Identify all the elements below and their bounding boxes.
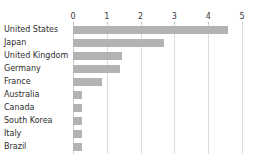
bar: [73, 39, 164, 47]
x-tick-label-5: 5: [239, 12, 244, 21]
category-label: Brazil: [0, 143, 65, 151]
x-axis-ticks: 012345: [0, 12, 257, 24]
gridline-4: [208, 24, 209, 154]
category-label: United Kingdom: [0, 52, 65, 60]
y-axis-category-labels: United StatesJapanUnited KingdomGermanyF…: [0, 24, 69, 154]
bar: [73, 78, 102, 86]
gridline-3: [174, 24, 175, 154]
category-label: Italy: [0, 130, 65, 138]
bar-chart: 012345 United StatesJapanUnited KingdomG…: [0, 0, 257, 160]
category-label: Australia: [0, 91, 65, 99]
bar: [73, 26, 228, 34]
x-tick-label-2: 2: [138, 12, 143, 21]
x-tick-label-3: 3: [172, 12, 177, 21]
bar: [73, 65, 120, 73]
category-label: Germany: [0, 65, 65, 73]
gridline-5: [242, 24, 243, 154]
bar: [73, 117, 82, 125]
category-label: Japan: [0, 39, 65, 47]
category-label: South Korea: [0, 117, 65, 125]
x-tick-label-1: 1: [104, 12, 109, 21]
x-tick-label-0: 0: [70, 12, 75, 21]
bar: [73, 130, 82, 138]
bar: [73, 143, 82, 151]
plot-area: [73, 24, 242, 154]
bar: [73, 52, 122, 60]
category-label: Canada: [0, 104, 65, 112]
bar: [73, 91, 82, 99]
bar: [73, 104, 82, 112]
category-label: United States: [0, 26, 65, 34]
x-tick-label-4: 4: [206, 12, 211, 21]
category-label: France: [0, 78, 65, 86]
